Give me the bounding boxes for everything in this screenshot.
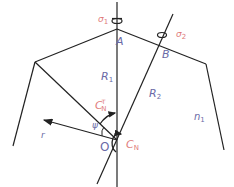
region-r2-label: R2 [149, 88, 161, 101]
r2-sub: 2 [157, 93, 161, 101]
left-boundary [13, 62, 35, 146]
sigma2-sub: 2 [182, 33, 186, 41]
cn-sub: N [134, 144, 139, 152]
cnt-sub: N [101, 105, 106, 113]
sigma1-sub: 1 [104, 18, 108, 26]
point-a-label: A [116, 36, 124, 47]
n1-sub: 1 [200, 116, 204, 124]
r2-main: R [149, 87, 157, 100]
r1-sub: 1 [109, 76, 113, 84]
cnt-arc [100, 113, 115, 124]
point-b-label: B [162, 49, 170, 60]
psi-angle-label: ψ [92, 121, 98, 130]
n1-label: n1 [194, 112, 205, 124]
cn-label: CN [126, 139, 139, 152]
cn-tangent-label: CTN [95, 99, 107, 113]
r2-slanted-line [97, 14, 173, 184]
cnt-sup: T [102, 98, 106, 105]
cn-main: C [126, 138, 134, 151]
diagram-canvas [0, 0, 234, 187]
psi-angle-arc [102, 127, 104, 136]
right-boundary [206, 64, 224, 150]
r1-main: R [101, 70, 109, 83]
sigma2-marker [158, 33, 167, 38]
origin-o-label: O [100, 141, 109, 153]
sigma1-label: σ1 [98, 15, 108, 26]
edge-a-left [35, 29, 117, 62]
sigma2-label: σ2 [176, 30, 186, 41]
region-r1-label: R1 [101, 71, 113, 84]
r-vector-label: r [41, 131, 45, 140]
